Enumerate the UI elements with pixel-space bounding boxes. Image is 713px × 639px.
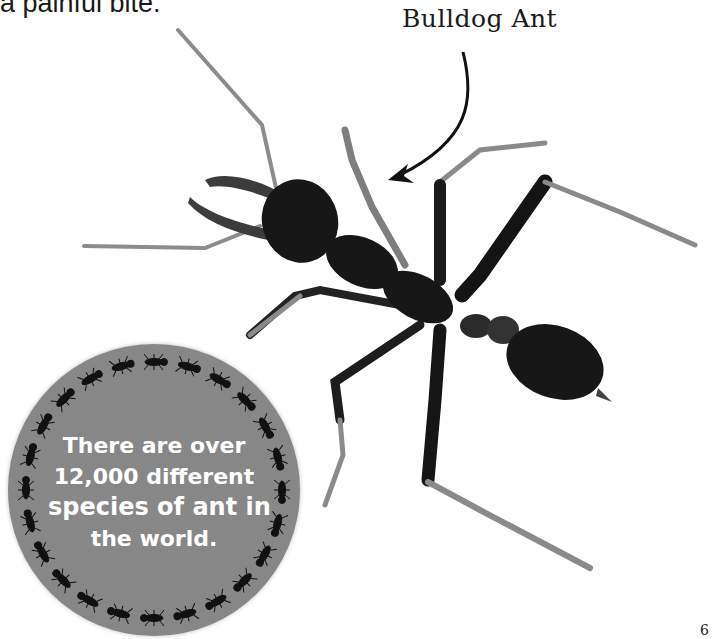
fact-line-3: species of ant in (48, 492, 260, 523)
page-number: 6 (700, 622, 709, 638)
fact-circle: There are over 12,000 different species … (8, 344, 300, 636)
fact-line-4: the world. (48, 523, 260, 554)
fact-line-2: 12,000 different (48, 461, 260, 492)
antenna-left (84, 30, 276, 248)
fact-line-1: There are over (48, 430, 260, 461)
fact-text: There are over 12,000 different species … (48, 430, 260, 554)
